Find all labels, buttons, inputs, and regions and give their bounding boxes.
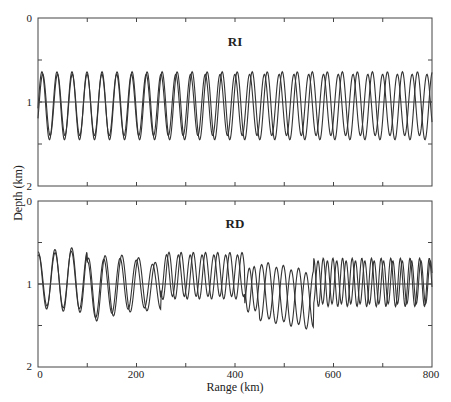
x-label-0: 0 (37, 368, 43, 380)
rd-y-label-0: 0 (27, 195, 33, 207)
x-axis-title: Range (km) (207, 380, 264, 394)
x-label-800: 800 (423, 368, 440, 380)
rd-panel-title: RD (226, 216, 245, 231)
rd-y-label-1: 1 (27, 278, 33, 290)
rd-ray-curves (38, 248, 432, 329)
ray-path-figure: RI 0 1 2 RD 0 1 2 0 200 400 600 800 Rang… (0, 0, 451, 402)
panel-ri: RI 0 1 2 (27, 12, 433, 192)
ri-y-label-1: 1 (27, 96, 33, 108)
x-label-400: 400 (227, 368, 244, 380)
ri-panel-title: RI (228, 34, 242, 49)
ri-y-label-2: 2 (27, 180, 33, 192)
y-axis-title: Depth (km) (11, 165, 25, 221)
ri-y-label-0: 0 (27, 12, 33, 24)
x-label-600: 600 (325, 368, 342, 380)
panel-rd: RD 0 1 2 0 200 400 600 800 (27, 195, 440, 380)
ri-ray-curves (38, 72, 432, 140)
rd-y-label-2: 2 (27, 360, 33, 372)
x-label-200: 200 (128, 368, 145, 380)
